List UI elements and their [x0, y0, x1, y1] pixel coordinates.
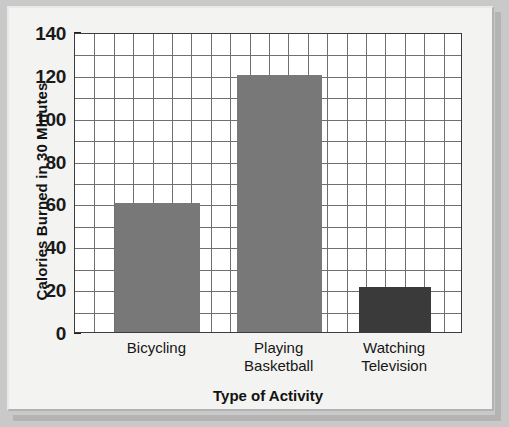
bar-2 [237, 75, 322, 332]
y-axis-tick-label: 0 [56, 324, 66, 343]
bar-chart: 020406080100120140 Calories Burned in 30… [0, 0, 509, 427]
gridline-vertical [347, 34, 348, 332]
bar-3 [359, 287, 431, 332]
x-axis-category-label-line: Television [314, 357, 474, 375]
gridline-vertical [327, 34, 328, 332]
x-axis-category-label: WatchingTelevision [314, 339, 474, 376]
x-axis-category-labels: BicyclingPlayingBasketballWatchingTelevi… [74, 339, 462, 385]
bar-1 [115, 203, 200, 332]
gridline-vertical [94, 34, 95, 332]
gridline-vertical [211, 34, 212, 332]
gridline-vertical [444, 34, 445, 332]
gridline-vertical [230, 34, 231, 332]
y-axis-title: Calories Burned in 30 Minutes [33, 77, 50, 307]
plot-area [74, 33, 462, 333]
x-axis-category-label-line: Watching [314, 339, 474, 357]
y-axis-tick-label: 140 [35, 24, 66, 43]
x-axis-title: Type of Activity [74, 387, 462, 404]
